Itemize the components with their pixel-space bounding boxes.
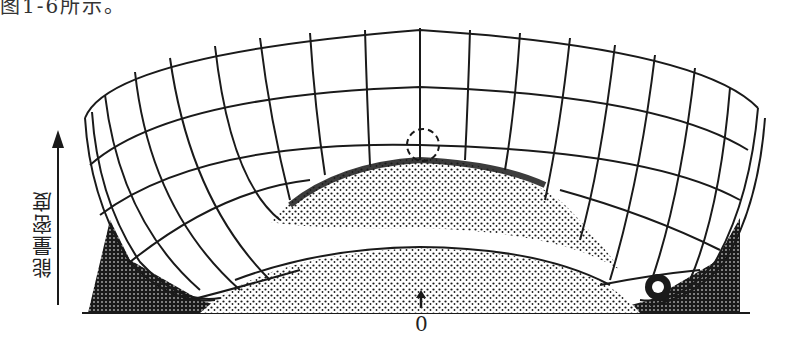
- potential-diagram: [0, 0, 792, 347]
- ball-icon: [645, 274, 671, 300]
- y-axis-arrow: [52, 130, 64, 305]
- origin-label: 0: [415, 312, 428, 336]
